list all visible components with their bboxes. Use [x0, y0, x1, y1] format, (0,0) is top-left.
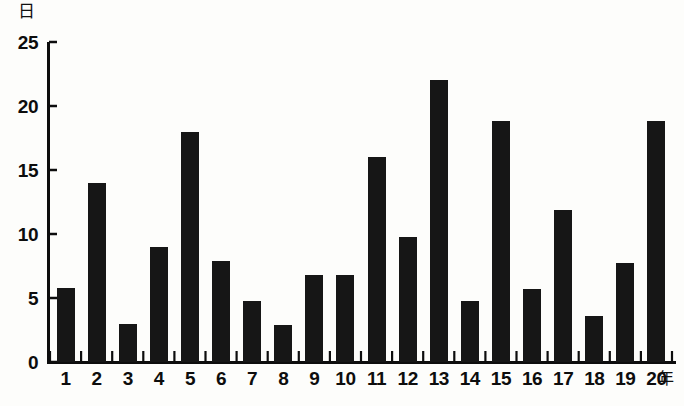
- x-tick-label: 11: [361, 368, 393, 389]
- x-tick-label: 16: [516, 368, 548, 389]
- y-tick-label: 10: [4, 225, 38, 244]
- bar: [212, 261, 230, 362]
- x-tick-label: 5: [174, 368, 206, 389]
- bar: [181, 132, 199, 362]
- bar-chart: 日 年 0510152025 1234567891011121314151617…: [0, 0, 684, 406]
- y-tick-label: 5: [4, 289, 38, 308]
- y-tick-label: 0: [4, 353, 38, 372]
- x-tick-label: 7: [236, 368, 268, 389]
- x-tick-label: 17: [547, 368, 579, 389]
- bar: [336, 275, 354, 362]
- y-tick-label: 20: [4, 97, 38, 116]
- x-tick-label: 3: [112, 368, 144, 389]
- bar: [243, 301, 261, 362]
- bar: [274, 325, 292, 362]
- y-tick-label: 25: [4, 33, 38, 52]
- x-tick-label: 12: [392, 368, 424, 389]
- bar: [88, 183, 106, 362]
- x-tick-label: 1: [50, 368, 82, 389]
- x-tick-label: 2: [81, 368, 113, 389]
- bar: [57, 288, 75, 362]
- bar: [616, 263, 634, 362]
- bar: [368, 157, 386, 362]
- bar: [647, 121, 665, 362]
- bar: [430, 80, 448, 362]
- x-tick-label: 18: [578, 368, 610, 389]
- x-tick-label: 6: [205, 368, 237, 389]
- x-tick-label: 10: [329, 368, 361, 389]
- x-tick-label: 8: [267, 368, 299, 389]
- bar: [305, 275, 323, 362]
- bar: [461, 301, 479, 362]
- bar: [399, 237, 417, 362]
- x-tick-label: 4: [143, 368, 175, 389]
- x-tick-label: 9: [298, 368, 330, 389]
- x-tick-label: 20: [640, 368, 672, 389]
- bar: [523, 289, 541, 362]
- bar: [119, 324, 137, 362]
- bar: [150, 247, 168, 362]
- bar: [492, 121, 510, 362]
- plot-area: 0510152025 12345678910111213141516171819…: [0, 0, 684, 406]
- y-tick-label: 15: [4, 161, 38, 180]
- bar: [585, 316, 603, 362]
- bar: [554, 210, 572, 362]
- x-tick-label: 19: [609, 368, 641, 389]
- x-tick-label: 14: [454, 368, 486, 389]
- x-tick-label: 13: [423, 368, 455, 389]
- x-tick-label: 15: [485, 368, 517, 389]
